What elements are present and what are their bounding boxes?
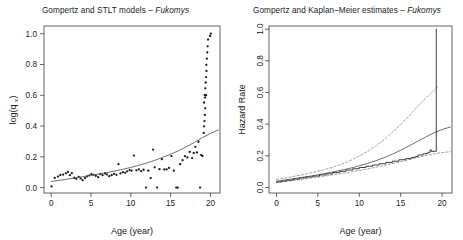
scatter-point: [205, 81, 207, 83]
x-tick-label: 15: [396, 199, 406, 208]
y-axis-title: log(qx): [8, 96, 18, 125]
series-line: [276, 86, 438, 179]
scatter-point: [204, 114, 206, 116]
y-tick-label: 0.4: [256, 118, 265, 130]
scatter-point: [119, 172, 121, 174]
y-tick-label: 0.0: [256, 181, 265, 193]
y-tick-label: 0.2: [26, 153, 38, 162]
y-axis-title-paren: ): [8, 96, 18, 99]
scatter-point: [69, 174, 71, 176]
scatter-point: [203, 125, 205, 127]
scatter-point: [133, 154, 135, 156]
x-tick-label: 10: [355, 199, 365, 208]
y-axis-title-main: log(q: [8, 104, 18, 124]
scatter-point: [106, 173, 108, 175]
scatter-point: [204, 96, 206, 98]
panel-right-plot: 051015200.00.20.40.60.81.0Age (year)Haza…: [231, 0, 463, 240]
y-tick-label: 0.6: [256, 86, 265, 98]
y-tick-label: 0.2: [256, 150, 265, 162]
scatter-point: [197, 141, 199, 143]
scatter-point: [209, 35, 211, 37]
scatter-point: [205, 70, 207, 72]
scatter-point: [203, 132, 205, 134]
scatter-point: [204, 87, 206, 89]
figure-container: Gompertz and STLT models – Fukomys 05101…: [0, 0, 463, 240]
x-axis-title: Age (year): [339, 226, 381, 236]
y-tick-label: 0.4: [26, 122, 38, 131]
data-layer: [50, 33, 218, 189]
scatter-point: [130, 170, 132, 172]
scatter-point: [170, 155, 172, 157]
panel-right-gompertz-km: Gompertz and Kaplan–Meier estimates – Fu…: [231, 0, 463, 240]
scatter-point: [163, 168, 165, 170]
scatter-point: [181, 159, 183, 161]
series-line: [276, 29, 436, 182]
scatter-point: [122, 171, 124, 173]
scatter-point: [140, 170, 142, 172]
x-axis-title: Age (year): [111, 226, 153, 236]
y-tick-label: 1.0: [256, 23, 265, 35]
scatter-point: [204, 107, 206, 109]
scatter-point: [97, 176, 99, 178]
data-layer: [276, 29, 450, 182]
y-tick-label: 0.8: [26, 60, 38, 69]
scatter-point: [189, 151, 191, 153]
scatter-point: [150, 177, 152, 179]
scatter-point: [115, 174, 117, 176]
scatter-point: [173, 170, 175, 172]
x-tick-label: 20: [438, 199, 448, 208]
x-tick-label: 0: [274, 199, 279, 208]
scatter-point: [65, 172, 67, 174]
scatter-point: [156, 186, 158, 188]
scatter-point: [199, 186, 201, 188]
scatter-point: [117, 163, 119, 165]
scatter-point: [67, 171, 69, 173]
scatter-point: [128, 169, 130, 171]
x-tick-label: 0: [49, 199, 54, 208]
scatter-point: [59, 174, 61, 176]
scatter-point: [205, 64, 207, 66]
plot-frame: [269, 26, 452, 193]
scatter-point: [203, 101, 205, 103]
x-tick-label: 5: [316, 199, 321, 208]
scatter-point: [194, 146, 196, 148]
y-tick-label: 1.0: [26, 30, 38, 39]
x-tick-label: 5: [89, 199, 94, 208]
scatter-point: [101, 174, 103, 176]
scatter-point: [184, 155, 186, 157]
scatter-point: [165, 168, 167, 170]
scatter-point: [154, 166, 156, 168]
scatter-point: [201, 155, 203, 157]
scatter-point: [81, 179, 83, 181]
plot-frame: [44, 26, 220, 193]
scatter-point: [62, 173, 64, 175]
scatter-point: [177, 186, 179, 188]
y-tick-label: 0.6: [26, 91, 38, 100]
scatter-point: [108, 175, 110, 177]
scatter-point: [205, 94, 207, 96]
scatter-point: [50, 185, 52, 187]
scatter-point: [203, 120, 205, 122]
scatter-point: [54, 177, 56, 179]
scatter-point: [152, 148, 154, 150]
scatter-point: [158, 168, 160, 170]
scatter-point: [179, 163, 181, 165]
scatter-point: [206, 51, 208, 53]
scatter-point: [138, 168, 140, 170]
scatter-point: [207, 45, 209, 47]
y-axis-title: Hazard Rate: [237, 84, 247, 135]
x-tick-label: 15: [166, 199, 176, 208]
scatter-point: [205, 76, 207, 78]
scatter-point: [191, 157, 193, 159]
scatter-point: [210, 33, 212, 35]
scatter-point: [135, 169, 137, 171]
x-tick-label: 20: [206, 199, 216, 208]
scatter-point: [196, 151, 198, 153]
scatter-point: [124, 172, 126, 174]
scatter-point: [186, 156, 188, 158]
scatter-point: [84, 177, 86, 179]
panel-left-plot: 051015200.00.20.40.60.81.0Age (year)log(…: [0, 0, 231, 240]
scatter-point: [168, 167, 170, 169]
scatter-point: [111, 174, 113, 176]
scatter-point: [145, 186, 147, 188]
